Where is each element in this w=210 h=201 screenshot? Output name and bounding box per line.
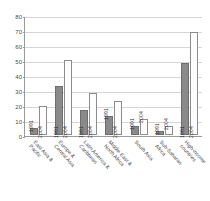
scan-artifact-bottom (0, 188, 210, 198)
y-tick-label: 80 (15, 14, 22, 20)
x-category-slot: Latin America & Caribbean (76, 139, 101, 189)
scan-artifact-top (0, 1, 210, 9)
bar-year-label: 1991 (130, 118, 135, 130)
bar[interactable]: 1991 (156, 131, 164, 136)
bar-group: 19912004 (152, 17, 177, 135)
bar-group: 19912004 (127, 17, 152, 135)
bar-year-label: 2004 (38, 126, 43, 138)
bar[interactable]: 2004 (190, 32, 198, 136)
y-tick-label: 0 (19, 134, 22, 140)
x-category-slot: Middle East & North Africa (101, 139, 126, 189)
y-tick-label: 30 (15, 89, 22, 95)
bar-year-label: 2004 (164, 118, 169, 130)
x-category-label: High-income countries (179, 139, 210, 186)
x-category-slot: South Asia (126, 139, 151, 189)
y-tick-mark (23, 137, 25, 138)
bar-group: 19912004 (177, 17, 202, 135)
y-tick-label: 10 (15, 119, 22, 125)
y-tick-mark (23, 32, 25, 33)
bar-group: 19912004 (26, 17, 51, 135)
x-axis-category-labels: East Asia & PacificEurope & Central Asia… (25, 139, 202, 189)
y-tick-mark (23, 122, 25, 123)
bar-year-label: 2004 (139, 111, 144, 123)
bar-group: 19912004 (51, 17, 76, 135)
bar-year-label: 1991 (180, 126, 185, 138)
bar[interactable]: 2004 (140, 119, 148, 135)
y-tick-mark (23, 17, 25, 18)
bar-year-label: 1991 (79, 126, 84, 138)
y-tick-mark (23, 77, 25, 78)
x-category-slot: Sub-Saharan Africa (151, 139, 176, 189)
bar[interactable]: 2004 (165, 126, 173, 135)
bar-year-label: 1991 (104, 108, 109, 120)
x-category-slot: East Asia & Pacific (25, 139, 50, 189)
bar-year-label: 2004 (88, 126, 93, 138)
y-tick-label: 70 (15, 29, 22, 35)
y-tick-mark (23, 92, 25, 93)
plot-area: 01020304050607080 1991200419912004199120… (24, 17, 202, 137)
bar[interactable]: 2004 (64, 60, 72, 135)
y-tick-label: 50 (15, 59, 22, 65)
bar[interactable]: 2004 (39, 106, 47, 135)
x-category-slot: High-income countries (177, 139, 202, 189)
bar-year-label: 2004 (63, 126, 68, 138)
bar-year-label: 2004 (189, 126, 194, 138)
chart-figure: 01020304050607080 1991200419912004199120… (0, 0, 210, 201)
y-tick-label: 60 (15, 44, 22, 50)
bar-groups: 1991200419912004199120041991200419912004… (26, 17, 202, 135)
y-tick-label: 20 (15, 104, 22, 110)
y-tick-mark (23, 107, 25, 108)
bar-year-label: 1991 (29, 120, 34, 132)
bar-year-label: 1991 (155, 123, 160, 135)
y-tick-mark (23, 47, 25, 48)
y-tick-label: 40 (15, 74, 22, 80)
bar[interactable]: 1991 (181, 63, 189, 135)
y-tick-mark (23, 62, 25, 63)
bar-group: 19912004 (101, 17, 126, 135)
bar-group: 19912004 (76, 17, 101, 135)
x-category-slot: Europe & Central Asia (50, 139, 75, 189)
bar-year-label: 2004 (113, 126, 118, 138)
bar-year-label: 1991 (54, 126, 59, 138)
bar[interactable]: 1991 (131, 126, 139, 135)
bar[interactable]: 2004 (89, 93, 97, 135)
bar[interactable]: 2004 (114, 101, 122, 136)
